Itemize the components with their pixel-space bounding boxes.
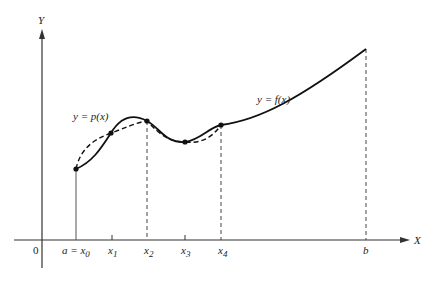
node-x3: [182, 139, 187, 144]
interpolation-nodes: [73, 118, 223, 171]
x-axis-label: X: [413, 234, 422, 246]
tick-label-x1: x1: [107, 244, 117, 259]
x-axis-arrow-icon: [400, 237, 410, 243]
tick-label-x0: a = x0: [62, 244, 90, 259]
y-axis-arrow-icon: [39, 29, 45, 39]
y-axis: Y: [38, 14, 46, 268]
x-ticks: [112, 235, 185, 240]
node-x4: [218, 122, 223, 127]
tick-label-x3: x3: [180, 244, 191, 259]
tick-label-b: b: [363, 244, 369, 256]
node-x1: [108, 130, 113, 135]
interpolation-diagram: Y X 0: [0, 0, 437, 282]
curve-f: [76, 49, 366, 169]
node-x0: [73, 166, 78, 171]
x-tick-labels: a = x0 x1 x2 x3 x4 b: [62, 244, 369, 259]
y-axis-label: Y: [38, 14, 46, 26]
origin-label: 0: [33, 244, 39, 256]
curve-p: [76, 121, 221, 169]
diagram-svg: Y X 0: [0, 0, 437, 282]
label-f: y = f(x): [256, 93, 290, 106]
vertical-guides: [76, 49, 366, 240]
label-p: y = p(x): [72, 110, 109, 123]
node-x2: [144, 118, 149, 123]
tick-label-x4: x4: [217, 244, 228, 259]
tick-label-x2: x2: [143, 244, 154, 259]
